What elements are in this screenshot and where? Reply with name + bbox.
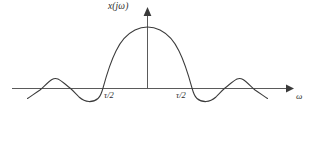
figure-container: x(jω) ω τ/2 τ/2 bbox=[0, 0, 312, 146]
x-axis-label: ω bbox=[296, 92, 302, 101]
arrow-right-icon bbox=[286, 85, 294, 93]
tick-label-positive-tau-over-2: τ/2 bbox=[176, 91, 186, 100]
y-axis-label: x(jω) bbox=[108, 2, 128, 12]
tick-label-negative-tau-over-2: τ/2 bbox=[104, 91, 114, 100]
sinc-plot-svg bbox=[0, 0, 312, 146]
arrow-up-icon bbox=[144, 7, 152, 16]
